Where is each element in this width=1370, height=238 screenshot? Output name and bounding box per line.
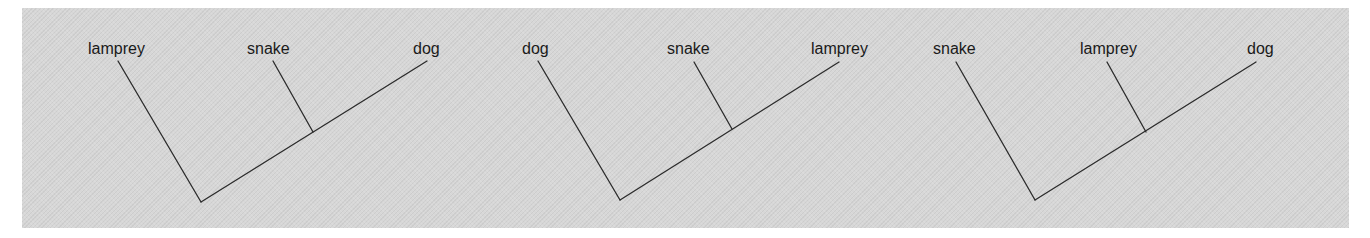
cladogram-2: dog snake lamprey: [522, 40, 868, 200]
cladogram-1: lamprey snake dog: [88, 40, 440, 202]
tree-1-label-right: dog: [413, 40, 440, 57]
tree-1-branch-middle: [273, 61, 313, 132]
tree-1-branch-left: [118, 61, 201, 202]
cladogram-3: snake lamprey dog: [933, 40, 1274, 200]
tree-2-branch-main: [620, 62, 839, 200]
tree-2-branch-middle: [694, 62, 732, 129]
cladogram-figure: lamprey snake dog dog snake lamprey snak…: [0, 0, 1370, 238]
tree-3-label-left: snake: [933, 40, 976, 57]
tree-3-label-right: dog: [1247, 40, 1274, 57]
tree-1-branch-main: [201, 61, 427, 202]
tree-3-branch-middle: [1107, 62, 1146, 132]
tree-2-label-left: dog: [522, 40, 549, 57]
tree-2-label-middle: snake: [667, 40, 710, 57]
tree-1-label-left: lamprey: [88, 40, 145, 57]
tree-1-label-middle: snake: [247, 40, 290, 57]
tree-2-branch-left: [538, 61, 620, 200]
tree-2-label-right: lamprey: [811, 40, 868, 57]
tree-3-label-middle: lamprey: [1080, 40, 1137, 57]
tree-3-branch-left: [956, 62, 1035, 200]
